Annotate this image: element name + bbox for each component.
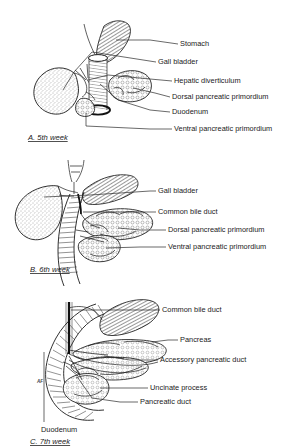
- gall-bladder-shape: [15, 186, 62, 240]
- label-ventral-pancreatic-primordium: Ventral pancreatic primordium: [174, 124, 272, 133]
- label-duodenum: Duodenum: [172, 107, 208, 116]
- label-pancreas: Pancreas: [180, 335, 212, 344]
- duodenum-shape: [74, 192, 84, 284]
- panel-a-drawing: [34, 21, 152, 117]
- label-common-bile-duct: Common bile duct: [158, 207, 218, 216]
- figure-root: Stomach Gall bladder Hepatic diverticulu…: [0, 0, 308, 448]
- label-accessory-pancreatic-duct: Accessory pancreatic duct: [160, 355, 246, 364]
- panel-b-labels: Gall bladder Common bile duct Dorsal pan…: [158, 186, 266, 251]
- stomach-pylorus-shape: [82, 175, 138, 205]
- label-gall-bladder: Gall bladder: [158, 186, 198, 195]
- label-dorsal-pancreatic-primordium: Dorsal pancreatic primordium: [168, 225, 265, 234]
- duodenum-top-rim: [89, 55, 108, 62]
- panel-c-7th-week: AF Common bile duct Pancreas Accessory p…: [0, 290, 308, 448]
- stomach-pylorus-shape: [100, 300, 159, 336]
- label-pancreatic-duct: Pancreatic duct: [140, 397, 191, 406]
- label-stomach: Stomach: [180, 39, 209, 48]
- ventral-pancreatic-primordium-shape: [78, 235, 120, 262]
- label-dorsal-pancreatic-primordium: Dorsal pancreatic primordium: [172, 92, 269, 101]
- panel-b-caption: B. 6th week: [30, 265, 71, 274]
- panel-c-caption: C. 7th week: [30, 437, 71, 446]
- label-hepatic-diverticulum: Hepatic diverticulum: [174, 76, 241, 85]
- liver-bulb-shape: [34, 68, 79, 114]
- label-uncinate-process: Uncinate process: [150, 383, 207, 392]
- cystic-duct: [58, 186, 78, 193]
- hepatic-duct-tree: [68, 160, 84, 194]
- label-duodenum: Duodenum: [41, 425, 77, 434]
- artist-signature: AF: [36, 379, 43, 384]
- panel-a-5th-week: Stomach Gall bladder Hepatic diverticulu…: [0, 0, 308, 150]
- panel-b-6th-week: Gall bladder Common bile duct Dorsal pan…: [0, 150, 308, 290]
- label-gall-bladder: Gall bladder: [158, 57, 198, 66]
- panel-a-caption: A. 5th week: [27, 133, 69, 142]
- leader-pancreas: [152, 340, 178, 342]
- label-common-bile-duct: Common bile duct: [162, 305, 222, 314]
- label-ventral-pancreatic-primordium: Ventral pancreatic primordium: [168, 242, 266, 251]
- panel-a-labels: Stomach Gall bladder Hepatic diverticulu…: [158, 39, 272, 133]
